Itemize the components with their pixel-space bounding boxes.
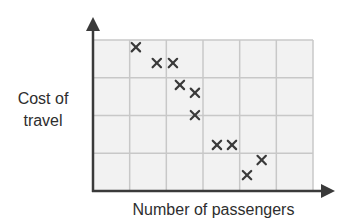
y-axis-label-line-1: Cost of (4, 88, 82, 110)
x-axis-label: Number of passengers (93, 200, 334, 220)
y-axis-label: Cost of travel (4, 88, 82, 132)
x-axis-arrow-icon (321, 184, 335, 198)
y-axis-label-line-2: travel (4, 110, 82, 132)
y-axis-arrow-icon (86, 17, 100, 31)
